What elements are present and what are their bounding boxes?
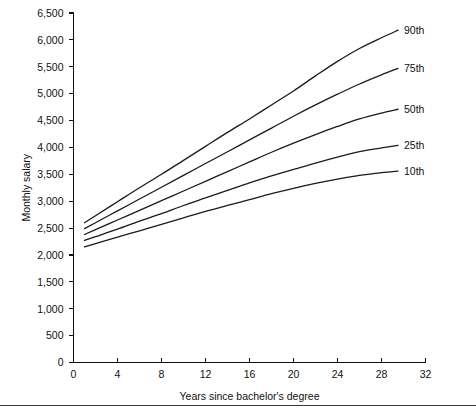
x-tick-label: 8 (159, 368, 165, 380)
x-tick-label: 32 (420, 368, 432, 380)
series-line-50th (85, 109, 399, 234)
series-line-90th (85, 30, 399, 222)
x-tick-label: 0 (71, 368, 77, 380)
y-tick-label: 2,000 (37, 249, 63, 261)
y-axis-group: 05001,0001,5002,0002,5003,0003,5004,0004… (20, 7, 74, 369)
chart-container: 05001,0001,5002,0002,5003,0003,5004,0004… (0, 0, 476, 411)
y-tick-label: 4,000 (37, 141, 63, 153)
x-axis-group: 048121620242832 Years since bachelor's d… (71, 358, 432, 402)
x-tick-label: 24 (332, 368, 344, 380)
series-curves-group (85, 30, 399, 247)
y-tick-label: 5,000 (37, 87, 63, 99)
x-axis-ticks: 048121620242832 (71, 358, 432, 380)
series-line-10th (85, 171, 399, 247)
x-tick-label: 28 (376, 368, 388, 380)
salary-percentile-line-chart: 05001,0001,5002,0002,5003,0003,5004,0004… (0, 0, 476, 411)
y-tick-label: 6,000 (37, 34, 63, 46)
y-tick-label: 3,000 (37, 195, 63, 207)
y-tick-label: 4,500 (37, 114, 63, 126)
series-label-50th: 50th (404, 103, 425, 115)
series-label-90th: 90th (404, 24, 425, 36)
series-label-25th: 25th (404, 139, 425, 151)
series-label-75th: 75th (404, 62, 425, 74)
y-tick-label: 1,500 (37, 276, 63, 288)
x-tick-label: 4 (115, 368, 121, 380)
series-line-75th (85, 68, 399, 228)
x-tick-label: 12 (200, 368, 212, 380)
y-tick-label: 1,000 (37, 303, 63, 315)
x-tick-label: 16 (244, 368, 256, 380)
x-tick-label: 20 (288, 368, 300, 380)
y-tick-label: 2,500 (37, 222, 63, 234)
x-axis-title: Years since bachelor's degree (180, 390, 320, 402)
y-tick-label: 3,500 (37, 168, 63, 180)
y-axis-title: Monthly salary (20, 153, 32, 221)
y-tick-label: 500 (46, 329, 64, 341)
series-labels-group: 90th75th50th25th10th (404, 24, 425, 177)
series-label-10th: 10th (404, 165, 425, 177)
y-axis-ticks: 05001,0001,5002,0002,5003,0003,5004,0004… (37, 7, 73, 369)
y-tick-label: 5,500 (37, 61, 63, 73)
y-tick-label: 6,500 (37, 7, 63, 19)
y-tick-label: 0 (58, 356, 64, 368)
